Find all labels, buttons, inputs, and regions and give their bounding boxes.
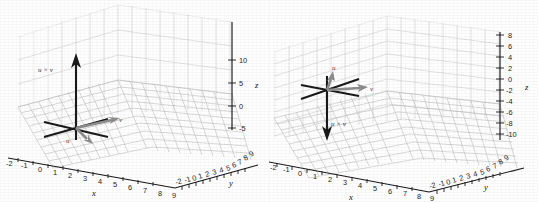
left-label-v: v bbox=[119, 116, 123, 124]
right-x-tick-5: 3 bbox=[343, 178, 347, 187]
right-z-tick-9: -10 bbox=[506, 130, 517, 139]
left-x-tick-9: 7 bbox=[143, 186, 147, 195]
left-x-tick-7: 5 bbox=[113, 180, 117, 189]
left-y-tick-11: 9 bbox=[247, 149, 255, 159]
right-z-axis bbox=[496, 32, 504, 140]
right-x-tick-8: 6 bbox=[388, 187, 392, 196]
right-y-tick-0: -2 bbox=[428, 180, 437, 190]
left-x-tick-11: 9 bbox=[172, 191, 176, 200]
right-x-tick-7: 5 bbox=[373, 184, 377, 193]
right-y-tick-2: 0 bbox=[445, 177, 451, 187]
right-y-tick-9: 7 bbox=[491, 161, 498, 171]
right-x-tick-0: -2 bbox=[270, 163, 277, 172]
panel-right: 8 6 4 2 0 -2 -4 -6 -8 -10 z bbox=[269, 0, 538, 202]
right-z-tick-0: 8 bbox=[508, 31, 512, 40]
right-y-tick-5: 3 bbox=[465, 171, 471, 181]
left-label-u-cross-v: u × v bbox=[38, 66, 54, 74]
left-z-axis-label: z bbox=[254, 80, 259, 90]
left-y-tick-5: 3 bbox=[211, 167, 217, 177]
left-x-tick-6: 4 bbox=[98, 177, 102, 186]
panel-left: 10 5 0 -5 z -2 -1 bbox=[0, 0, 269, 202]
right-back-wall-grid bbox=[274, 16, 500, 137]
left-label-u: u bbox=[66, 137, 70, 145]
right-x-axis bbox=[269, 162, 429, 192]
left-z-tick-labels: 10 5 0 -5 bbox=[239, 56, 247, 133]
right-y-tick-4: 2 bbox=[458, 173, 464, 183]
right-x-tick-10: 8 bbox=[417, 192, 421, 201]
right-x-tick-6: 4 bbox=[358, 181, 362, 190]
right-z-tick-2: 4 bbox=[508, 53, 512, 62]
right-x-tick-3: 1 bbox=[313, 172, 317, 181]
left-y-tick-4: 2 bbox=[204, 169, 210, 179]
right-label-u-cross-v: u × v bbox=[331, 120, 347, 128]
right-x-tick-9: 7 bbox=[403, 189, 407, 198]
left-x-axis bbox=[8, 158, 175, 188]
left-x-tick-3: 1 bbox=[53, 168, 57, 177]
left-x-tick-5: 3 bbox=[83, 174, 87, 183]
right-z-tick-8: -8 bbox=[506, 119, 513, 128]
right-y-tick-8: 6 bbox=[485, 164, 492, 174]
right-z-tick-1: 6 bbox=[508, 42, 512, 51]
right-label-u: u bbox=[332, 64, 336, 72]
right-y-axis-label: y bbox=[483, 182, 488, 192]
left-x-tick-2: 0 bbox=[38, 165, 42, 174]
left-y-tick-2: 0 bbox=[191, 173, 197, 183]
right-floor-grid bbox=[274, 91, 518, 178]
right-z-tick-5: -2 bbox=[506, 86, 513, 95]
right-x-tick-11: 9 bbox=[430, 194, 434, 202]
left-z-tick-0: 10 bbox=[239, 56, 247, 65]
right-y-tick-3: 1 bbox=[451, 175, 457, 185]
left-y-axis-label: y bbox=[228, 178, 233, 188]
left-z-tick-3: -5 bbox=[239, 124, 246, 133]
left-x-tick-0: -2 bbox=[6, 159, 13, 168]
right-x-tick-2: 0 bbox=[298, 169, 302, 178]
right-z-axis-label: z bbox=[524, 82, 529, 92]
right-z-tick-4: 0 bbox=[508, 75, 512, 84]
right-plot-svg: 8 6 4 2 0 -2 -4 -6 -8 -10 z bbox=[269, 0, 538, 202]
right-z-tick-6: -4 bbox=[506, 97, 513, 106]
left-x-tick-4: 2 bbox=[68, 171, 72, 180]
right-x-tick-4: 2 bbox=[328, 175, 332, 184]
left-y-tick-labels: -2 -1 0 1 2 3 4 5 6 7 8 9 bbox=[174, 149, 255, 187]
right-z-tick-labels: 8 6 4 2 0 -2 -4 -6 -8 -10 bbox=[506, 31, 517, 139]
left-y-tick-6: 4 bbox=[218, 165, 224, 175]
right-z-tick-3: 2 bbox=[508, 64, 512, 73]
right-y-tick-labels: -2 -1 0 1 2 3 4 5 6 7 8 9 bbox=[428, 153, 510, 191]
right-label-v: v bbox=[370, 85, 374, 93]
right-y-tick-6: 4 bbox=[472, 169, 478, 179]
right-y-tick-7: 5 bbox=[479, 167, 485, 177]
left-plot-svg: 10 5 0 -5 z -2 -1 bbox=[0, 0, 269, 202]
left-x-tick-10: 8 bbox=[158, 189, 162, 198]
right-x-tick-1: -1 bbox=[283, 165, 290, 174]
figure-root: 10 5 0 -5 z -2 -1 bbox=[0, 0, 538, 202]
left-z-tick-2: 0 bbox=[239, 102, 243, 111]
left-y-tick-0: -2 bbox=[174, 176, 183, 186]
left-x-tick-1: -1 bbox=[21, 161, 28, 170]
right-y-tick-11: 9 bbox=[502, 153, 510, 163]
right-x-axis-label: x bbox=[348, 192, 353, 202]
left-z-axis bbox=[228, 22, 236, 130]
right-z-tick-7: -6 bbox=[506, 108, 513, 117]
left-y-tick-3: 1 bbox=[197, 171, 203, 181]
left-x-tick-8: 6 bbox=[128, 183, 132, 192]
left-y-tick-9: 7 bbox=[236, 157, 243, 167]
left-x-axis-label: x bbox=[91, 188, 96, 198]
left-y-tick-7: 5 bbox=[225, 163, 231, 173]
left-z-tick-1: 5 bbox=[239, 79, 243, 88]
